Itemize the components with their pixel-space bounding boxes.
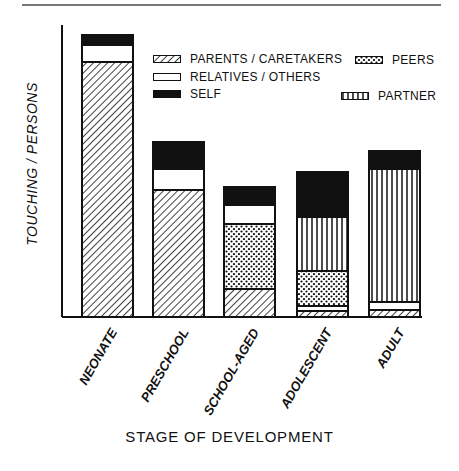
bar-segment [369,169,420,302]
black-swatch-icon [153,90,181,98]
bar-segment [369,151,420,169]
y-axis-label: TOUCHING / PERSONS [24,64,40,264]
legend-label: RELATIVES / OTHERS [190,70,321,84]
bar-segment [369,310,420,317]
bar-segment [82,35,133,45]
bar-segment [224,187,275,205]
bar-segment [153,142,204,169]
bar-segment [224,205,275,224]
bar-segment [297,217,348,271]
legend-label: PARENTS / CARETAKERS [190,52,342,66]
bar-segment [82,45,133,62]
legend-item-relatives: RELATIVES / OTHERS [153,70,321,84]
dots-swatch-icon [355,56,383,64]
bar-segment [153,190,204,317]
x-axis-label: STAGE OF DEVELOPMENT [0,428,459,445]
white-swatch-icon [153,73,181,81]
legend-item-parents: PARENTS / CARETAKERS [153,52,342,66]
hatch-swatch-icon [153,55,181,63]
legend-item-self: SELF [153,87,221,101]
bar-segment [369,302,420,310]
legend-label: SELF [190,87,221,101]
bar-segment [224,224,275,289]
legend-item-peers: PEERS [355,53,434,67]
legend-label: PARTNER [378,89,436,103]
bar-segment [224,289,275,317]
legend-item-partner: PARTNER [341,89,436,103]
bar-segment [153,169,204,190]
bar-segment [297,271,348,306]
stripes-swatch-icon [341,92,369,100]
bar-segment [82,62,133,317]
legend-label: PEERS [392,53,434,67]
bar-segment [297,172,348,217]
